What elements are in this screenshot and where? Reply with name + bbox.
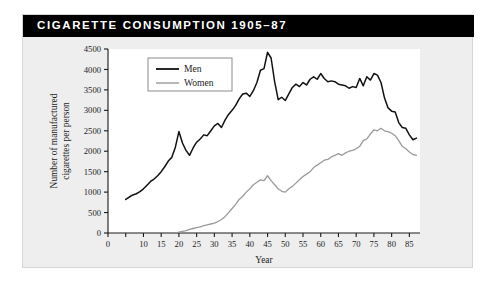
y-axis-title-line: Number of manufactured	[49, 93, 59, 188]
x-tick-label: 35	[228, 239, 237, 249]
y-axis-title: Number of manufacturedcigarettes per per…	[49, 93, 71, 188]
plot-area: 050010001500200025003000350040004500 010…	[23, 37, 474, 269]
y-tick-label: 500	[88, 208, 101, 218]
y-tick-label: 1500	[84, 167, 101, 177]
x-tick-label: 15	[157, 239, 166, 249]
x-tick-label: 55	[299, 239, 308, 249]
x-tick-label: 65	[334, 239, 343, 249]
y-axis-title-line: cigarettes per person	[61, 102, 71, 180]
x-tick-label: 40	[246, 239, 255, 249]
x-tick-label: 75	[370, 239, 379, 249]
legend-label-men: Men	[184, 63, 202, 74]
x-tick-label: 25	[192, 239, 201, 249]
x-tick-label: 10	[139, 239, 148, 249]
y-tick-label: 4500	[84, 44, 101, 54]
x-tick-label: 70	[352, 239, 361, 249]
x-tick-label: 50	[281, 239, 290, 249]
x-tick-label: 60	[316, 239, 325, 249]
y-tick-label: 0	[97, 228, 101, 238]
legend-label-women: Women	[184, 77, 214, 88]
x-tick-label: 20	[175, 239, 184, 249]
y-tick-label: 2000	[84, 146, 101, 156]
chart-legend: MenWomen	[148, 58, 232, 91]
x-tick-label: 85	[405, 239, 414, 249]
chart-title-bar: CIGARETTE CONSUMPTION 1905–87	[23, 15, 474, 37]
x-tick-label: 45	[263, 239, 272, 249]
y-tick-label: 3500	[84, 85, 101, 95]
y-tick-label: 3000	[84, 105, 101, 115]
x-axis: 010152025303540455055606570758085	[106, 233, 414, 249]
y-axis: 050010001500200025003000350040004500	[84, 44, 108, 238]
x-tick-label: 0	[106, 239, 110, 249]
figure-panel: CIGARETTE CONSUMPTION 1905–87 0500100015…	[22, 14, 473, 268]
line-chart: 050010001500200025003000350040004500 010…	[23, 37, 474, 269]
y-tick-label: 2500	[84, 126, 101, 136]
x-axis-title: Year	[255, 255, 273, 265]
x-tick-label: 30	[210, 239, 219, 249]
y-tick-label: 4000	[84, 65, 101, 75]
x-tick-label: 80	[387, 239, 396, 249]
page-title: CIGARETTE CONSUMPTION 1905–87	[37, 19, 287, 31]
y-tick-label: 1000	[84, 187, 101, 197]
